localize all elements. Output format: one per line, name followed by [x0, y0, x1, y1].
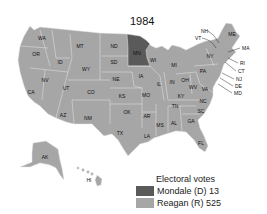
state-label-al: AL: [171, 120, 177, 126]
state-label-tn: TN: [172, 103, 179, 109]
alaska-shape: [20, 141, 64, 180]
state-label-nm: NM: [84, 115, 92, 121]
state-label-ks: KS: [119, 93, 126, 99]
callout-label-ct: CT: [238, 68, 245, 74]
callout-label-ma: MA: [242, 45, 250, 51]
state-label-or: OR: [32, 51, 40, 57]
legend-item-mondale: Mondale (D) 13: [136, 185, 221, 197]
callout-label-ri: RI: [240, 60, 245, 66]
callout-label-vt: VT: [195, 35, 201, 41]
map-title: 1984: [130, 15, 154, 27]
legend-title: Electoral votes: [156, 174, 221, 185]
legend-item-reagan: Reagan (R) 525: [136, 197, 221, 209]
state-label-me: ME: [228, 31, 236, 37]
state-label-nc: NC: [199, 98, 206, 104]
state-label-wy: WY: [82, 66, 90, 72]
state-label-ar: AR: [144, 113, 151, 119]
state-label-pa: PA: [200, 68, 206, 74]
state-label-wa: WA: [38, 35, 46, 41]
state-label-ne: NE: [113, 76, 120, 82]
state-label-nd: ND: [110, 43, 117, 49]
state-label-wi: WI: [150, 57, 156, 63]
callout-label-de: DE: [235, 83, 242, 89]
state-label-sd: SD: [111, 59, 118, 65]
state-label-ky: KY: [178, 93, 185, 99]
state-label-sc: SC: [198, 108, 205, 114]
state-label-az: AZ: [60, 112, 66, 118]
state-label-mo: MO: [142, 92, 150, 98]
state-label-ca: CA: [28, 89, 35, 95]
callout-label-nj: NJ: [236, 76, 242, 82]
state-label-ga: GA: [187, 118, 194, 124]
electoral-map: 1984 WAORCANVIDMTWYUTCOAZNMNDSDNEKSOKTXM…: [0, 0, 267, 214]
legend-label-mondale: Mondale (D) 13: [157, 186, 219, 196]
state-label-ms: MS: [156, 122, 164, 128]
state-label-co: CO: [87, 89, 95, 95]
us-map-svg: [0, 0, 267, 214]
state-label-fl: FL: [198, 140, 204, 146]
state-label-ok: OK: [123, 109, 130, 115]
state-label-tx: TX: [117, 130, 123, 136]
state-label-oh: OH: [181, 77, 189, 83]
state-label-in: IN: [170, 79, 175, 85]
reagan-swatch: [136, 198, 154, 208]
state-label-ia: IA: [139, 73, 144, 79]
state-label-ak: AK: [42, 154, 49, 160]
state-label-nv: NV: [42, 77, 49, 83]
state-label-mi: MI: [171, 62, 177, 68]
state-label-la: LA: [144, 133, 150, 139]
legend-label-reagan: Reagan (R) 525: [157, 198, 221, 208]
state-label-wv: WV: [189, 84, 197, 90]
state-label-hi: HI: [87, 177, 92, 183]
state-label-il: IL: [157, 81, 161, 87]
callout-label-md: MD: [234, 90, 242, 96]
legend: Electoral votes Mondale (D) 13 Reagan (R…: [136, 174, 221, 209]
mondale-swatch: [136, 186, 154, 196]
state-label-va: VA: [202, 86, 208, 92]
state-label-id: ID: [58, 59, 63, 65]
state-label-mn: MN: [133, 50, 141, 56]
state-label-mt: MT: [76, 43, 83, 49]
callout-label-nh: NH: [201, 28, 208, 34]
state-label-ut: UT: [63, 85, 70, 91]
state-label-ny: NY: [207, 53, 214, 59]
